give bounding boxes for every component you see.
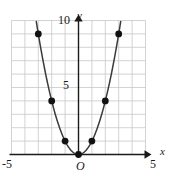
axes [10,15,152,159]
origin-label: O [76,160,85,172]
y-axis-mid-tick-label: 5 [63,79,69,91]
parabola-plot [0,0,172,181]
figure-container: 10 y 5 -5 5 x O [0,0,172,181]
y-axis-max-tick-label: 10 [58,14,70,26]
x-axis-min-tick-label: -5 [2,158,12,170]
y-axis-name-label: y [77,10,82,21]
x-axis-name-label: x [160,146,165,157]
x-axis-max-tick-label: 5 [150,158,156,170]
